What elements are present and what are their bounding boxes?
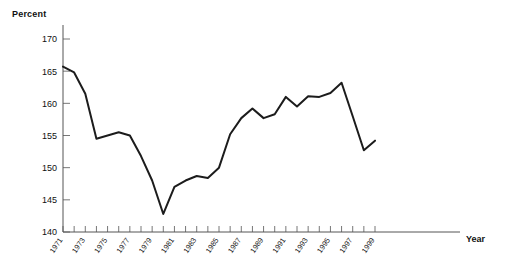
- x-tick-label: 1999: [360, 236, 377, 255]
- y-tick-label: 170: [42, 34, 57, 44]
- y-tick-label: 155: [42, 131, 57, 141]
- y-tick-label: 150: [42, 163, 57, 173]
- x-tick-label: 1981: [159, 236, 176, 255]
- x-tick-label: 1997: [337, 236, 354, 255]
- y-tick-label: 140: [42, 227, 57, 237]
- x-tick-label: 1979: [137, 236, 154, 255]
- x-tick-label: 1989: [248, 236, 265, 255]
- y-axis-ticks: 140145150155160165170: [42, 34, 70, 237]
- x-tick-label: 1995: [315, 236, 332, 255]
- y-tick-label: 145: [42, 195, 57, 205]
- data-series-line: [63, 67, 375, 214]
- y-tick-label: 165: [42, 67, 57, 77]
- x-tick-label: 1993: [293, 236, 310, 255]
- x-tick-label: 1987: [226, 236, 243, 255]
- x-tick-label: 1973: [70, 236, 87, 255]
- line-chart: Percent Year 140145150155160165170 19711…: [0, 0, 512, 271]
- x-tick-label: 1991: [271, 236, 288, 255]
- chart-canvas: 140145150155160165170 197119731975197719…: [0, 0, 512, 271]
- x-axis-ticks: 1971197319751977197919811983198519871989…: [48, 226, 377, 255]
- x-tick-label: 1977: [115, 236, 132, 255]
- y-tick-label: 160: [42, 99, 57, 109]
- x-tick-label: 1975: [92, 236, 109, 255]
- x-tick-label: 1983: [181, 236, 198, 255]
- x-tick-label: 1985: [204, 236, 221, 255]
- x-tick-label: 1971: [48, 236, 65, 255]
